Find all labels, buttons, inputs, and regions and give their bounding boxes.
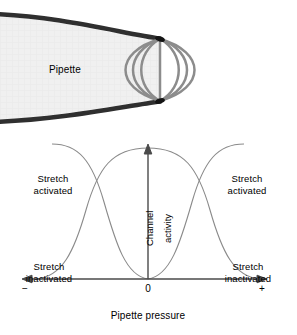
figure-container: Pipette Stretch activated Stret xyxy=(0,0,297,335)
annotation-line-1: Stretch inactivated xyxy=(207,261,289,284)
annotation-line-1: Stretch activated xyxy=(213,173,281,196)
y-axis-label-part-2: activity xyxy=(162,214,173,243)
x-tick-label-zero: 0 xyxy=(141,283,155,294)
x-axis-label: Pipette pressure xyxy=(78,310,218,322)
y-axis-label-part-1: Channel xyxy=(144,211,155,246)
annotation-line-1: Stretch inactivated xyxy=(9,261,89,284)
y-axis-arrow-top xyxy=(144,144,152,154)
annotation-stretch-activated-left: Stretch activated xyxy=(22,150,84,219)
annotation-stretch-activated-right: Stretch activated xyxy=(213,150,281,219)
pipette-label: Pipette xyxy=(49,64,81,76)
annotation-stretch-inactivated-right: Stretch inactivated xyxy=(207,238,289,307)
pipette-diagram xyxy=(0,0,297,140)
annotation-stretch-inactivated-left: Stretch inactivated xyxy=(9,238,89,307)
x-tick-label-negative: − xyxy=(22,283,28,294)
annotation-line-1: Stretch activated xyxy=(22,173,84,196)
x-tick-label-positive: + xyxy=(259,283,265,294)
